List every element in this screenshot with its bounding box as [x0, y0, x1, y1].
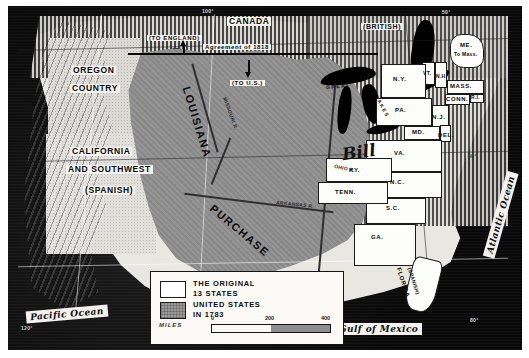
- label-state-rhodeisland: R.I.: [471, 95, 480, 100]
- map-plate: CANADA (BRITISH) 100° 50° 120° 80° 40° (…: [8, 6, 522, 350]
- scale-bar-segment-1: [212, 325, 271, 332]
- label-state-newyork: N.Y.: [393, 76, 406, 82]
- label-state-maine: ME.: [460, 42, 472, 48]
- graticule-label-50: 50°: [442, 10, 450, 15]
- legend-original-line2: 13 STATES: [193, 289, 255, 299]
- label-state-delaware: DEL.: [438, 132, 454, 138]
- label-to-us: (TO U.S.): [230, 80, 265, 86]
- graticule-label-40: 40°: [468, 154, 476, 159]
- label-agreement-1818: Agreement of 1818: [203, 44, 271, 50]
- label-to-england: (TO ENGLAND): [147, 35, 202, 41]
- label-state-tennessee: TENN.: [335, 189, 356, 195]
- label-state-georgia: GA.: [371, 234, 383, 240]
- state-georgia: [354, 224, 416, 266]
- scale-tick-400: 400: [321, 315, 330, 321]
- label-state-connecticut: CONN.: [446, 96, 468, 102]
- to-england-arrow: [180, 40, 186, 46]
- map-legend: THE ORIGINAL 13 STATES UNITED STATES IN …: [150, 271, 344, 345]
- legend-miles-label: MILES: [159, 322, 182, 328]
- label-state-northcarolina: N.C.: [390, 179, 404, 185]
- legend-us1783-line1: UNITED STATES: [193, 300, 261, 310]
- scale-bar-segment-2: [271, 325, 330, 332]
- label-california-line1: CALIFORNIA: [70, 147, 132, 156]
- label-state-newhampshire: N.H.: [436, 74, 447, 79]
- label-state-maryland: MD.: [412, 129, 425, 135]
- label-oregon-line2: COUNTRY: [70, 84, 120, 93]
- legend-us1783-line2: IN 1783: [193, 310, 261, 320]
- label-california-line2: AND SOUTHWEST: [66, 165, 153, 174]
- label-gulf-of-mexico: Gulf of Mexico: [335, 323, 422, 335]
- label-state-maine-note: To Mass.: [454, 52, 477, 57]
- label-state-newjersey: N.J.: [432, 114, 445, 120]
- to-us-arrow: [245, 72, 251, 78]
- scale-tick-200: 200: [265, 315, 274, 321]
- scale-tick-0: 0: [211, 315, 214, 321]
- graticule-label-100: 100°: [202, 9, 214, 14]
- label-state-pennsylvania: PA.: [395, 107, 406, 113]
- label-oregon-line1: OREGON: [71, 66, 116, 75]
- label-state-southcarolina: S.C.: [386, 205, 400, 211]
- label-state-massachusetts: MASS.: [450, 83, 472, 89]
- legend-swatch-original-states: [160, 281, 186, 298]
- graticule-label-120: 120°: [21, 326, 33, 331]
- legend-entry-original-states: THE ORIGINAL 13 STATES: [160, 279, 255, 299]
- legend-scale-bar: [211, 324, 331, 333]
- historical-map: CANADA (BRITISH) 100° 50° 120° 80° 40° (…: [0, 0, 529, 358]
- legend-label-united-states-1783: UNITED STATES IN 1783: [193, 300, 261, 320]
- label-state-kentucky: KY.: [349, 167, 360, 173]
- graticule-label-80: 80°: [470, 318, 478, 323]
- legend-label-original-states: THE ORIGINAL 13 STATES: [193, 279, 255, 299]
- label-state-vermont: VT.: [423, 71, 431, 76]
- label-canada: CANADA: [227, 17, 271, 26]
- legend-swatch-united-states-1783: [160, 302, 186, 319]
- label-canada-qualifier: (BRITISH): [361, 23, 403, 30]
- label-state-virginia: VA.: [394, 150, 405, 156]
- legend-original-line1: THE ORIGINAL: [193, 279, 255, 289]
- label-california-qualifier: (SPANISH): [83, 186, 135, 195]
- agreement-1818-boundary: [128, 53, 378, 55]
